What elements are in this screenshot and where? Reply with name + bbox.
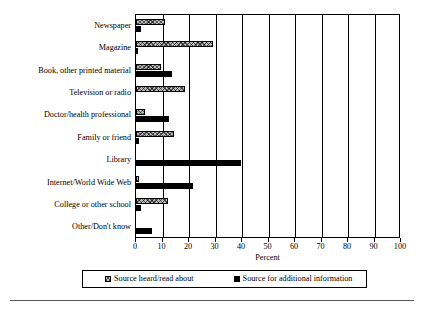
footer-divider <box>10 300 414 301</box>
legend-item-heard-read-about: Source heard/read about <box>105 274 194 284</box>
y-axis-label: Internet/World Wide Web <box>0 178 131 187</box>
x-axis-ticks: 0102030405060708090100 <box>135 238 400 252</box>
bar-heard-read <box>136 131 174 137</box>
bar-group <box>136 217 399 239</box>
y-axis-label: Other/Don't know <box>0 222 131 231</box>
x-tick-label: 50 <box>256 242 280 252</box>
bar-heard-read <box>136 109 145 115</box>
bar-additional-info <box>136 71 172 77</box>
x-tick-label: 40 <box>229 242 253 252</box>
x-tick-label: 10 <box>150 242 174 252</box>
legend-label: Source for additional information <box>243 274 353 284</box>
y-axis-labels: NewspaperMagazineBook, other printed mat… <box>0 14 131 238</box>
chart-legend: Source heard/read about Source for addit… <box>82 270 367 288</box>
y-axis-label: Magazine <box>0 43 131 52</box>
bar-additional-info <box>136 116 169 122</box>
y-axis-label: Newspaper <box>0 21 131 30</box>
x-axis-title: Percent <box>135 253 400 263</box>
hatched-square-icon <box>105 276 111 282</box>
y-axis-label: Book, other printed material <box>0 66 131 75</box>
bar-additional-info <box>136 26 141 32</box>
bar-group <box>136 127 399 149</box>
y-axis-label: Television or radio <box>0 88 131 97</box>
bar-heard-read <box>136 41 213 47</box>
bar-group <box>136 105 399 127</box>
bar-additional-info <box>136 138 139 144</box>
bar-additional-info <box>136 183 193 189</box>
x-tick-label: 20 <box>176 242 200 252</box>
chart-figure: NewspaperMagazineBook, other printed mat… <box>0 0 424 309</box>
bar-additional-info <box>136 160 241 166</box>
bar-rows <box>136 15 399 237</box>
bar-group <box>136 149 399 171</box>
bar-group <box>136 172 399 194</box>
y-axis-label: Doctor/health professional <box>0 110 131 119</box>
x-tick-label: 90 <box>362 242 386 252</box>
bar-group <box>136 194 399 216</box>
bar-group <box>136 82 399 104</box>
bar-additional-info <box>136 48 138 54</box>
y-axis-label: Family or friend <box>0 133 131 142</box>
bar-heard-read <box>136 64 161 70</box>
bar-group <box>136 15 399 37</box>
bar-group <box>136 37 399 59</box>
bar-heard-read <box>136 198 168 204</box>
legend-item-additional-information: Source for additional information <box>234 274 353 284</box>
y-axis-label: College or other school <box>0 200 131 209</box>
bar-heard-read <box>136 86 185 92</box>
x-tick-label: 60 <box>282 242 306 252</box>
bar-additional-info <box>136 228 152 234</box>
x-tick-label: 80 <box>335 242 359 252</box>
plot-area <box>135 14 400 238</box>
x-tick-label: 30 <box>203 242 227 252</box>
bar-group <box>136 60 399 82</box>
legend-label: Source heard/read about <box>114 274 194 284</box>
x-tick-label: 100 <box>388 242 412 252</box>
x-tick-label: 0 <box>123 242 147 252</box>
bar-heard-read <box>136 176 139 182</box>
bar-heard-read <box>136 19 165 25</box>
black-square-icon <box>234 276 240 282</box>
bar-additional-info <box>136 205 141 211</box>
y-axis-label: Library <box>0 155 131 164</box>
x-tick-label: 70 <box>309 242 333 252</box>
